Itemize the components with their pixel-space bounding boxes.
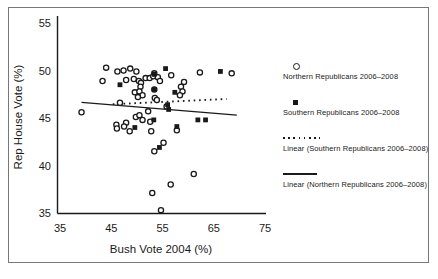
- legend-label: Linear (Southern Republicans 2006–2008): [283, 144, 435, 153]
- legend-label: Northern Republicans 2006–2008: [283, 72, 435, 81]
- data-point-southern: [157, 145, 162, 150]
- data-point-northern: [104, 65, 109, 70]
- data-point-northern: [140, 117, 145, 122]
- legend-item-southern: Southern Republicans 2006–2008: [283, 96, 435, 117]
- data-point-southern: [118, 82, 123, 87]
- y-tick-label: 45: [39, 112, 51, 124]
- y-tick-label: 50: [39, 65, 51, 77]
- data-point-northern: [146, 109, 151, 114]
- data-point-northern: [115, 69, 120, 74]
- x-tick-label: 45: [105, 222, 117, 234]
- data-point-northern: [100, 78, 105, 83]
- data-point-northern: [79, 110, 84, 115]
- data-point-southern: [166, 107, 171, 112]
- data-point-northern: [121, 68, 126, 73]
- data-point-southern: [218, 69, 223, 74]
- data-point-northern: [177, 93, 182, 98]
- data-point-southern: [174, 124, 179, 129]
- data-point-northern: [229, 71, 234, 76]
- data-point-northern: [152, 149, 157, 154]
- data-point-northern: [157, 78, 162, 83]
- x-axis-tick-labels: 3545556575: [54, 222, 271, 234]
- figure: 3540455055 3545556575 Bush Vote 2004 (%)…: [0, 0, 438, 279]
- data-point-northern: [128, 66, 133, 71]
- data-point-northern: [149, 129, 154, 134]
- data-point-southern: [151, 118, 156, 123]
- dotted-line-icon: [283, 137, 320, 139]
- x-axis-title: Bush Vote 2004 (%): [110, 243, 212, 255]
- legend-item-linear-southern: Linear (Southern Republicans 2006–2008): [283, 132, 435, 153]
- x-tick-label: 35: [54, 222, 66, 234]
- data-point-southern: [132, 125, 137, 130]
- solid-line-icon: [283, 173, 317, 174]
- data-point-northern: [154, 97, 159, 102]
- y-axis-tick-labels: 3540455055: [39, 17, 51, 219]
- data-point-northern: [191, 171, 196, 176]
- data-point-northern: [168, 182, 173, 187]
- data-point-northern: [131, 76, 136, 81]
- data-point-northern: [158, 208, 163, 213]
- data-point-southern: [203, 118, 208, 123]
- data-point-southern: [165, 102, 170, 107]
- data-point-northern: [161, 140, 166, 145]
- x-tick-label: 65: [208, 222, 220, 234]
- data-point-northern: [127, 129, 132, 134]
- open-circle-icon: [293, 63, 300, 70]
- data-point-northern: [124, 77, 129, 82]
- y-tick-label: 40: [39, 160, 51, 172]
- y-axis-title: Rep House Vote (%): [12, 64, 24, 169]
- data-point-northern: [135, 95, 140, 100]
- y-tick-label: 55: [39, 17, 51, 29]
- y-tick-label: 35: [39, 207, 51, 219]
- legend-item-linear-northern: Linear (Northern Republicans 2006–2008): [283, 168, 435, 189]
- data-point-southern: [163, 66, 168, 71]
- legend-item-northern: Northern Republicans 2006–2008: [283, 60, 435, 81]
- legend-label: Linear (Northern Republicans 2006–2008): [283, 180, 435, 189]
- data-point-northern: [117, 100, 122, 105]
- data-point-southern: [172, 90, 177, 95]
- trend-line-northern: [82, 102, 237, 115]
- data-point-southern: [152, 87, 157, 92]
- data-point-northern: [121, 124, 126, 129]
- x-tick-label: 55: [156, 222, 168, 234]
- legend-label: Southern Republicans 2006–2008: [283, 108, 435, 117]
- data-point-southern: [195, 118, 200, 123]
- data-point-southern: [152, 72, 157, 77]
- filled-square-icon: [293, 100, 298, 105]
- x-tick-label: 75: [259, 222, 271, 234]
- data-point-northern: [197, 70, 202, 75]
- data-point-northern: [134, 69, 139, 74]
- scatter-points: [79, 65, 234, 213]
- data-point-northern: [114, 126, 119, 131]
- data-point-northern: [150, 190, 155, 195]
- data-point-northern: [169, 73, 174, 78]
